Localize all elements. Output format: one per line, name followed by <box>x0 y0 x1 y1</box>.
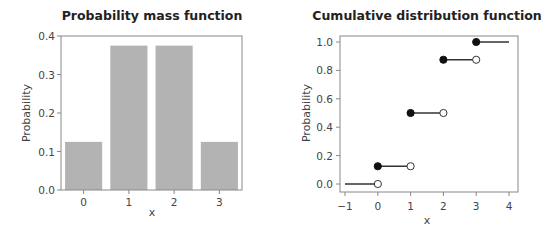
closed-point <box>407 109 414 116</box>
open-point <box>473 56 480 63</box>
x-tick-label: −1 <box>337 200 352 212</box>
y-tick-label: 0.2 <box>316 150 333 162</box>
x-tick-label: 4 <box>506 200 513 212</box>
pmf-chart: Probability mass function 0.00.10.20.30.… <box>20 8 242 219</box>
cdf-chart: Cumulative distribution function 0.00.20… <box>300 8 542 227</box>
closed-point <box>374 163 381 170</box>
closed-point <box>473 38 480 45</box>
x-tick-label: 2 <box>440 200 447 212</box>
cdf-step-segments <box>345 38 509 187</box>
y-tick-label: 0.4 <box>38 30 55 42</box>
x-tick-label: 0 <box>80 196 87 208</box>
y-tick-label: 0.1 <box>38 146 55 158</box>
y-tick-label: 1.0 <box>316 36 333 48</box>
x-tick-label: 3 <box>216 196 223 208</box>
cdf-y-axis: 0.00.20.40.60.81.0 <box>316 36 340 190</box>
pmf-title: Probability mass function <box>62 8 243 23</box>
y-tick-label: 0.8 <box>316 64 333 76</box>
x-tick-label: 0 <box>374 200 381 212</box>
cdf-x-label: x <box>424 214 431 227</box>
figure: Probability mass function 0.00.10.20.30.… <box>0 0 542 232</box>
x-tick-label: 2 <box>171 196 178 208</box>
pmf-y-label: Probability <box>20 83 33 142</box>
y-tick-label: 0.2 <box>38 107 55 119</box>
y-tick-label: 0.0 <box>316 178 333 190</box>
pmf-y-axis: 0.00.10.20.30.4 <box>38 30 61 196</box>
pmf-bar-0 <box>65 142 102 190</box>
pmf-bar-3 <box>201 142 238 190</box>
pmf-bar-1 <box>110 46 147 190</box>
closed-point <box>440 56 447 63</box>
open-point <box>374 180 381 187</box>
pmf-bars <box>65 46 238 190</box>
y-tick-label: 0.6 <box>316 93 333 105</box>
open-point <box>407 163 414 170</box>
pmf-bar-2 <box>156 46 193 190</box>
pmf-x-label: x <box>149 206 156 219</box>
y-tick-label: 0.3 <box>38 69 55 81</box>
cdf-y-label: Probability <box>300 83 313 142</box>
x-tick-label: 1 <box>126 196 133 208</box>
y-tick-label: 0.0 <box>38 184 55 196</box>
cdf-plot-frame <box>340 36 518 192</box>
x-tick-label: 3 <box>473 200 480 212</box>
open-point <box>440 109 447 116</box>
y-tick-label: 0.4 <box>316 121 333 133</box>
cdf-title: Cumulative distribution function <box>312 8 541 23</box>
x-tick-label: 1 <box>407 200 414 212</box>
cdf-x-axis: −101234 <box>337 192 512 212</box>
